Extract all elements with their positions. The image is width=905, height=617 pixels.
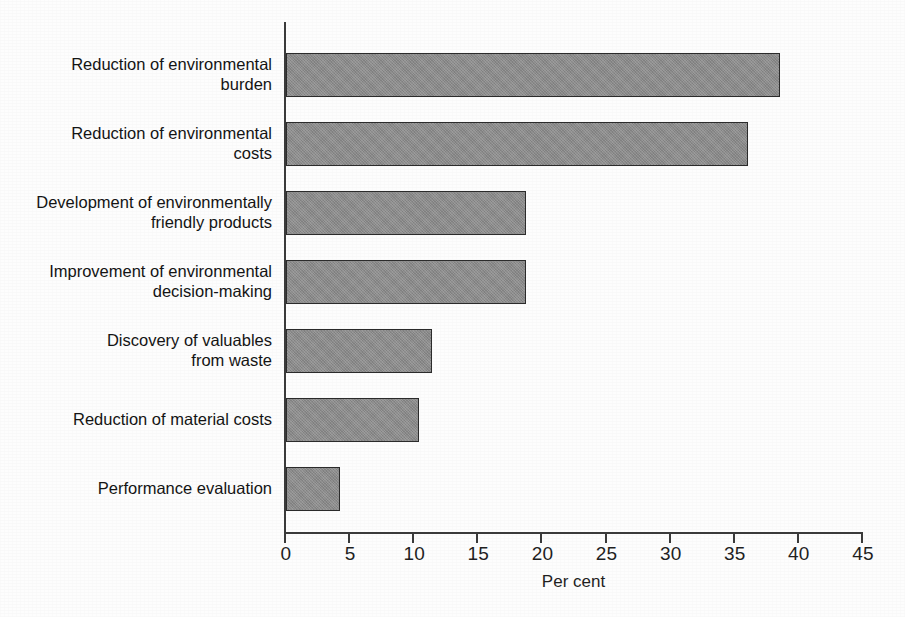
x-axis-tick-label: 15 — [448, 543, 508, 565]
x-axis-tick — [797, 534, 799, 543]
x-axis-tick-label: 35 — [705, 543, 765, 565]
x-axis-tick-label: 0 — [256, 543, 316, 565]
bar — [286, 191, 526, 235]
x-axis-tick-label: 45 — [833, 543, 893, 565]
bar — [286, 53, 780, 97]
x-axis-tick — [412, 534, 414, 543]
category-label: Improvement of environmental decision-ma… — [0, 261, 272, 301]
x-axis-line — [284, 532, 863, 534]
x-axis-tick — [861, 534, 863, 543]
category-label: Reduction of environmental burden — [0, 54, 272, 94]
category-label: Reduction of environmental costs — [0, 123, 272, 163]
x-axis-tick-label: 30 — [641, 543, 701, 565]
x-axis-tick — [476, 534, 478, 543]
bar — [286, 122, 748, 166]
bar — [286, 398, 419, 442]
x-axis-tick — [605, 534, 607, 543]
category-label: Discovery of valuables from waste — [0, 330, 272, 370]
x-axis-title: Per cent — [285, 572, 862, 592]
x-axis-tick-label: 40 — [769, 543, 829, 565]
x-axis-tick — [540, 534, 542, 543]
x-axis-tick-label: 25 — [577, 543, 637, 565]
x-axis-tick-label: 5 — [320, 543, 380, 565]
x-axis-tick-label: 10 — [384, 543, 444, 565]
bar — [286, 329, 432, 373]
x-axis-tick-label: 20 — [512, 543, 572, 565]
x-axis-tick — [348, 534, 350, 543]
category-label: Performance evaluation — [0, 478, 272, 498]
x-axis-tick — [284, 534, 286, 543]
x-axis-tick — [669, 534, 671, 543]
category-label: Development of environmentally friendly … — [0, 192, 272, 232]
category-label: Reduction of material costs — [0, 409, 272, 429]
bar-chart: Reduction of environmental burdenReducti… — [0, 0, 905, 617]
bar — [286, 260, 526, 304]
bar — [286, 467, 340, 511]
x-axis-tick — [733, 534, 735, 543]
